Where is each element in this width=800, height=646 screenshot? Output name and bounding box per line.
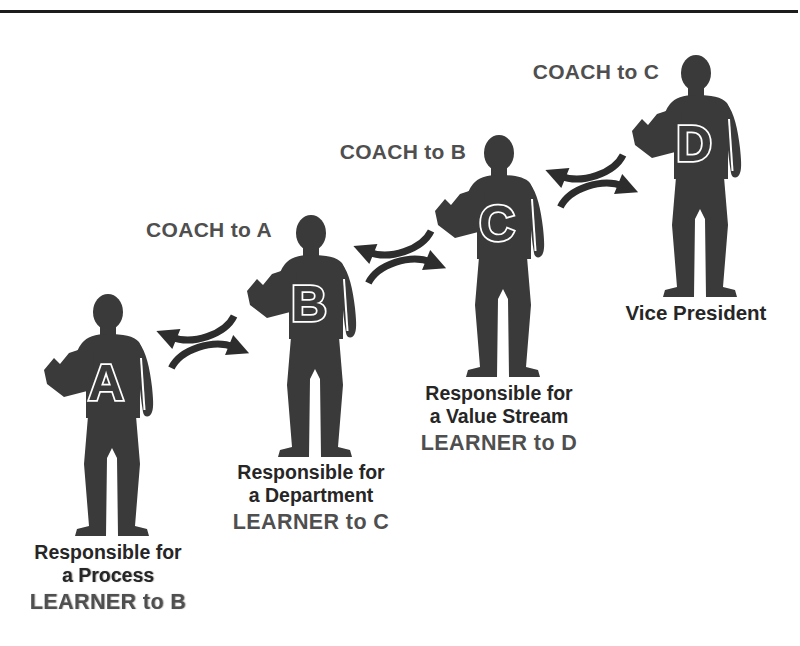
top-rule xyxy=(0,10,798,13)
coaching-cycle-arrows-cd-icon xyxy=(542,132,642,232)
coaching-chain-diagram: COACH to A COACH to B COACH to C A B C D xyxy=(0,0,800,646)
learner-label: LEARNER to B xyxy=(8,589,208,615)
person-shape-use xyxy=(632,55,741,297)
person-shape-use xyxy=(435,135,544,377)
role-line: Responsible for xyxy=(8,541,208,564)
learner-label: LEARNER to D xyxy=(399,430,599,456)
coaching-cycle-arrows-ab-icon xyxy=(153,293,253,393)
role-line: a Department xyxy=(211,484,411,507)
person-silhouette-d: D xyxy=(630,51,762,299)
person-shape-use xyxy=(247,215,356,457)
caption-c: Responsible for a Value Stream LEARNER t… xyxy=(399,382,599,456)
cycle-bottom-arc xyxy=(365,253,432,283)
chest-letter-c: C xyxy=(479,196,515,252)
coaching-cycle-arrows-bc-icon xyxy=(350,208,450,308)
cycle-bottom-arc xyxy=(168,338,235,368)
role-line: a Value Stream xyxy=(399,405,599,428)
role-line: Responsible for xyxy=(399,382,599,405)
cycle-top-arc xyxy=(170,316,237,346)
chest-letter-b: B xyxy=(291,276,327,332)
role-line: Vice President xyxy=(596,301,796,325)
learner-label: LEARNER to C xyxy=(211,509,411,535)
caption-b: Responsible for a Department LEARNER to … xyxy=(211,461,411,535)
person-shape-use xyxy=(44,294,153,536)
cycle-top-arc xyxy=(559,155,626,185)
role-line: Responsible for xyxy=(211,461,411,484)
cycle-bottom-arc xyxy=(557,177,624,207)
caption-d: Vice President xyxy=(596,301,796,325)
role-line: a Process xyxy=(8,564,208,587)
cycle-top-arc xyxy=(367,231,434,261)
chest-letter-a: A xyxy=(88,355,124,411)
chest-letter-d: D xyxy=(676,116,712,172)
caption-a: Responsible for a Process LEARNER to B xyxy=(8,541,208,615)
